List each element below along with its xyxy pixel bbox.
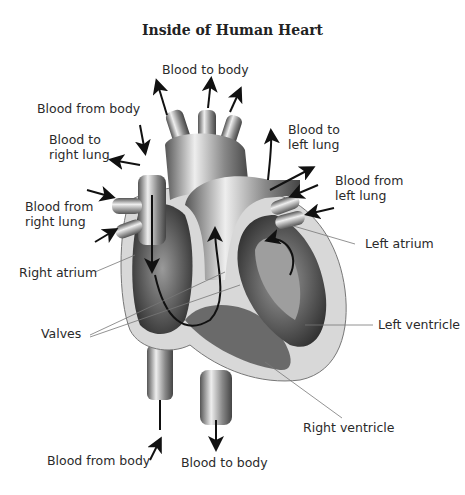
label-blood-to-right-lung-line2: right lung: [49, 147, 110, 163]
inferior-vena-cava: [147, 345, 173, 400]
label-right-atrium: Right atrium: [19, 265, 97, 281]
label-left-atrium: Left atrium: [365, 236, 434, 252]
label-right-ventricle: Right ventricle: [303, 420, 394, 436]
label-blood-from-left-lung-line2: left lung: [335, 188, 386, 204]
right-pulmonary-vein-1: [112, 198, 142, 214]
descending-aorta: [200, 370, 232, 425]
label-blood-from-body-top: Blood from body: [37, 101, 140, 117]
label-blood-from-right-lung-line1: Blood from: [25, 199, 93, 215]
label-valves: Valves: [41, 326, 81, 342]
label-blood-from-body-bottom: Blood from body: [47, 453, 150, 469]
label-blood-to-body-bottom: Blood to body: [181, 455, 268, 471]
label-blood-to-left-lung-line2: left lung: [288, 137, 339, 153]
label-blood-to-body-top: Blood to body: [162, 62, 249, 78]
label-blood-from-right-lung-line2: right lung: [25, 214, 86, 230]
label-left-ventricle: Left ventricle: [378, 317, 460, 333]
label-blood-to-left-lung-line1: Blood to: [288, 122, 340, 138]
label-blood-from-left-lung-line1: Blood from: [335, 173, 403, 189]
label-blood-to-right-lung-line1: Blood to: [49, 132, 101, 148]
